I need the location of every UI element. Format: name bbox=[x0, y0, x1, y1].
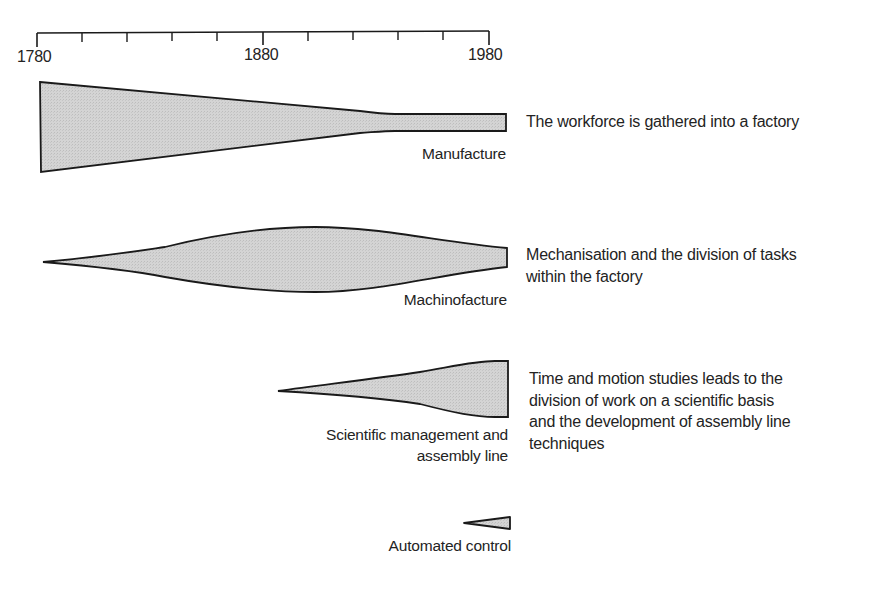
machinofacture-shape bbox=[43, 227, 507, 292]
machinofacture-label: Machinofacture bbox=[404, 289, 507, 310]
manufacture-label: Manufacture bbox=[422, 143, 506, 164]
automated-control-shape bbox=[464, 517, 510, 529]
scientific-management-description: Time and motion studies leads to the div… bbox=[529, 368, 790, 454]
scientific-management-shape bbox=[278, 361, 508, 417]
axis-label-1880: 1880 bbox=[244, 46, 278, 64]
machinofacture-description: Mechanisation and the division of tasks … bbox=[526, 244, 797, 287]
time-axis bbox=[37, 31, 489, 47]
scientific-management-label: Scientific management and assembly line bbox=[326, 424, 508, 466]
automated-control-label: Automated control bbox=[389, 535, 511, 556]
axis-label-1780: 1780 bbox=[17, 48, 51, 66]
axis-label-1980: 1980 bbox=[468, 46, 502, 64]
manufacture-description: The workforce is gathered into a factory bbox=[526, 111, 799, 133]
